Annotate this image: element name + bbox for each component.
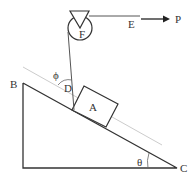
rope-to-block: [68, 32, 74, 110]
vertex-c-label: C: [180, 162, 187, 174]
force-arrow-head: [163, 16, 170, 23]
force-label: P: [175, 13, 181, 25]
vertex-b-label: B: [10, 78, 17, 90]
block-label: A: [89, 101, 97, 113]
pulley-label: F: [79, 28, 85, 40]
angle-phi-label: ϕ: [53, 69, 59, 81]
incline-pulley-diagram: A F E P ϕ D B C θ: [0, 0, 195, 178]
rope-end-label: E: [128, 18, 135, 30]
angle-theta-arc: [147, 153, 149, 168]
angle-theta-label: θ: [137, 156, 142, 168]
rope-attach-label: D: [64, 82, 72, 94]
